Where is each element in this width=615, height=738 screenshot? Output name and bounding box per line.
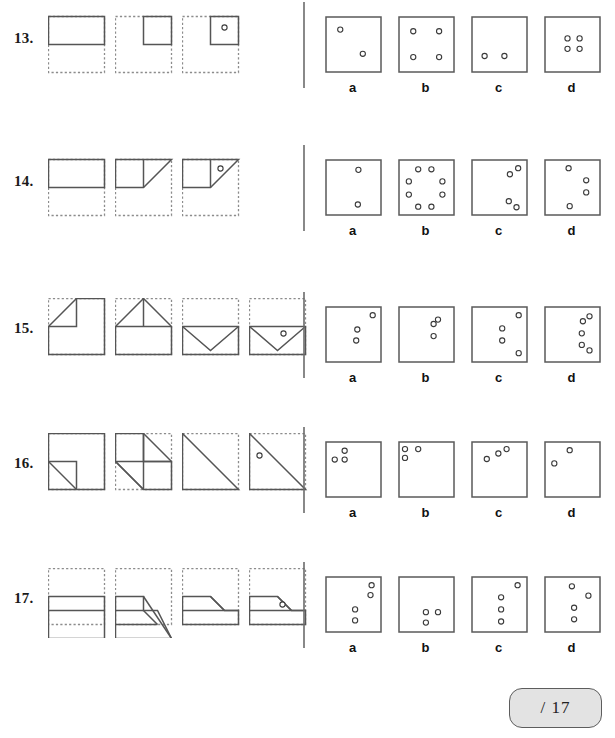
answer-option-letter[interactable]: d <box>562 80 582 95</box>
answer-option-square[interactable] <box>471 159 530 218</box>
answer-option-square[interactable] <box>544 441 603 500</box>
answer-option-square[interactable] <box>398 306 457 365</box>
question-number: 15. <box>14 320 33 337</box>
answer-option-square[interactable] <box>325 159 384 218</box>
answer-option-letter[interactable]: c <box>489 223 509 238</box>
answer-option-letter[interactable]: a <box>343 223 363 238</box>
fold-step-diagram <box>182 568 244 638</box>
fold-step-diagram <box>115 298 177 368</box>
fold-step-diagram <box>182 8 244 78</box>
question-row: 16.abcd <box>0 425 615 545</box>
answer-option-letter[interactable]: d <box>562 640 582 655</box>
question-number: 17. <box>14 590 33 607</box>
answer-option-letter[interactable]: b <box>416 505 436 520</box>
answer-option-square[interactable] <box>325 441 384 500</box>
answer-option-letter[interactable]: c <box>489 80 509 95</box>
answer-option-letter[interactable]: d <box>562 223 582 238</box>
answer-option-square[interactable] <box>471 441 530 500</box>
question-row: 14.abcd <box>0 143 615 263</box>
answer-option-square[interactable] <box>544 576 603 635</box>
answer-option-square[interactable] <box>544 159 603 218</box>
answer-option-square[interactable] <box>471 306 530 365</box>
answer-option-letter[interactable]: b <box>416 640 436 655</box>
answer-option-letter[interactable]: d <box>562 370 582 385</box>
fold-step-diagram <box>48 151 110 221</box>
section-divider <box>302 2 306 90</box>
answer-option-square[interactable] <box>398 159 457 218</box>
answer-option-square[interactable] <box>325 576 384 635</box>
fold-step-diagram <box>182 298 244 368</box>
fold-step-diagram <box>115 8 177 78</box>
answer-option-square[interactable] <box>398 16 457 75</box>
fold-step-diagram <box>48 433 110 503</box>
fold-step-diagram <box>182 151 244 221</box>
section-divider <box>302 292 306 380</box>
fold-step-diagram <box>48 298 110 368</box>
section-divider <box>302 145 306 233</box>
answer-option-square[interactable] <box>544 16 603 75</box>
fold-step-diagram <box>115 433 177 503</box>
section-divider <box>302 562 306 650</box>
question-row: 17.abcd <box>0 560 615 680</box>
question-row: 15.abcd <box>0 290 615 410</box>
question-row: 13.abcd <box>0 0 615 120</box>
answer-option-square[interactable] <box>471 576 530 635</box>
answer-option-square[interactable] <box>544 306 603 365</box>
fold-step-diagram <box>115 151 177 221</box>
section-divider <box>302 427 306 515</box>
fold-step-diagram <box>115 568 177 638</box>
question-number: 14. <box>14 173 33 190</box>
answer-option-letter[interactable]: a <box>343 505 363 520</box>
question-number: 16. <box>14 455 33 472</box>
answer-option-letter[interactable]: c <box>489 370 509 385</box>
answer-option-square[interactable] <box>398 576 457 635</box>
answer-option-letter[interactable]: c <box>489 505 509 520</box>
answer-option-letter[interactable]: b <box>416 223 436 238</box>
score-box[interactable]: / 17 <box>509 688 602 728</box>
score-label: / 17 <box>510 698 601 718</box>
answer-option-square[interactable] <box>325 306 384 365</box>
answer-option-letter[interactable]: b <box>416 80 436 95</box>
answer-option-letter[interactable]: a <box>343 370 363 385</box>
answer-option-letter[interactable]: d <box>562 505 582 520</box>
answer-option-square[interactable] <box>398 441 457 500</box>
fold-step-diagram <box>48 568 110 638</box>
answer-option-square[interactable] <box>325 16 384 75</box>
question-number: 13. <box>14 30 33 47</box>
answer-option-letter[interactable]: c <box>489 640 509 655</box>
fold-step-diagram <box>182 433 244 503</box>
worksheet-page: 13.abcd14.abcd15.abcd16.abcd17.abcd <box>0 0 615 738</box>
answer-option-letter[interactable]: a <box>343 80 363 95</box>
fold-step-diagram <box>48 8 110 78</box>
answer-option-letter[interactable]: b <box>416 370 436 385</box>
answer-option-square[interactable] <box>471 16 530 75</box>
answer-option-letter[interactable]: a <box>343 640 363 655</box>
